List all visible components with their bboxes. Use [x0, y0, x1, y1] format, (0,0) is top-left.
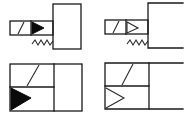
outline-arrow-icon [127, 22, 138, 33]
symbol-bottom-right [105, 63, 183, 109]
spring-icon [32, 40, 53, 45]
valve-diagonal [27, 65, 39, 86]
symbol-top-left [10, 4, 81, 49]
solenoid-diagonal [18, 22, 24, 34]
actuator-body-bracket [148, 3, 183, 48]
valve-diagonal [122, 64, 133, 85]
symbol-bottom-left [10, 64, 82, 111]
outline-chevron-icon [106, 88, 124, 108]
filled-arrow-icon [32, 22, 44, 34]
filled-arrow-icon [11, 88, 31, 110]
symbol-top-right [105, 3, 183, 48]
solenoid-diagonal [113, 21, 119, 33]
diagram-canvas [0, 0, 184, 116]
spring-icon [127, 40, 148, 45]
actuator-body-box [53, 4, 81, 49]
